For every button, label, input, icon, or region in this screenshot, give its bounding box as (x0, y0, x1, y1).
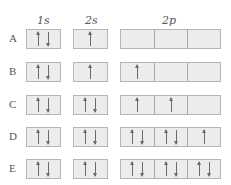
spin-down-arrow-icon (95, 162, 96, 176)
configuration-row: B (0, 62, 231, 82)
orbital-cell (154, 96, 187, 114)
spin-up-arrow-icon (166, 162, 167, 176)
spin-up-arrow-icon (38, 130, 39, 144)
orbital-cell (154, 128, 187, 146)
configuration-row: E (0, 159, 231, 179)
spin-up-arrow-icon (137, 65, 138, 79)
spin-up-arrow-icon (85, 162, 86, 176)
orbital-2p-box (120, 62, 221, 82)
spin-up-arrow-icon (38, 98, 39, 112)
orbital-1s-box (26, 62, 61, 82)
orbital-cell (27, 160, 60, 178)
spin-up-arrow-icon (132, 130, 133, 144)
orbital-cell (187, 160, 220, 178)
orbital-1s-box (26, 127, 61, 147)
orbital-cell (187, 96, 220, 114)
spin-down-arrow-icon (48, 130, 49, 144)
orbital-cell (121, 63, 154, 81)
spin-up-arrow-icon (38, 162, 39, 176)
spin-down-arrow-icon (95, 98, 96, 112)
orbital-cell (154, 160, 187, 178)
spin-down-arrow-icon (48, 162, 49, 176)
orbital-2p-box (120, 95, 221, 115)
option-label: D (9, 130, 17, 142)
spin-up-arrow-icon (137, 98, 138, 112)
orbital-1s-box (26, 159, 61, 179)
orbital-1s-box (26, 95, 61, 115)
orbital-cell (121, 96, 154, 114)
spin-up-arrow-icon (204, 130, 205, 144)
spin-up-arrow-icon (85, 98, 86, 112)
spin-down-arrow-icon (48, 98, 49, 112)
orbital-cell (27, 128, 60, 146)
orbital-2s-box (73, 95, 108, 115)
spin-up-arrow-icon (90, 32, 91, 46)
spin-up-arrow-icon (171, 98, 172, 112)
orbital-2p-box (120, 127, 221, 147)
spin-down-arrow-icon (176, 130, 177, 144)
orbital-cell (187, 128, 220, 146)
spin-down-arrow-icon (48, 32, 49, 46)
orbital-cell (121, 30, 154, 48)
spin-down-arrow-icon (209, 162, 210, 176)
orbital-2s-box (73, 62, 108, 82)
orbital-cell (121, 128, 154, 146)
spin-down-arrow-icon (142, 130, 143, 144)
orbital-1s-box (26, 29, 61, 49)
configuration-row: D (0, 127, 231, 147)
orbital-cell (154, 63, 187, 81)
spin-up-arrow-icon (166, 130, 167, 144)
spin-down-arrow-icon (95, 130, 96, 144)
orbital-cell (74, 96, 107, 114)
configuration-row: A (0, 29, 231, 49)
spin-down-arrow-icon (48, 65, 49, 79)
orbital-cell (74, 63, 107, 81)
header-1s: 1s (37, 14, 50, 27)
header-2p: 2p (162, 14, 176, 27)
orbital-cell (74, 30, 107, 48)
orbital-2p-box (120, 29, 221, 49)
spin-down-arrow-icon (142, 162, 143, 176)
spin-down-arrow-icon (176, 162, 177, 176)
orbital-2s-box (73, 159, 108, 179)
spin-up-arrow-icon (38, 65, 39, 79)
orbital-2p-box (120, 159, 221, 179)
orbital-cell (27, 30, 60, 48)
configuration-row: C (0, 95, 231, 115)
spin-up-arrow-icon (38, 32, 39, 46)
orbital-cell (187, 30, 220, 48)
option-label: A (9, 32, 17, 44)
header-2s: 2s (85, 14, 98, 27)
orbital-cell (121, 160, 154, 178)
orbital-cell (27, 63, 60, 81)
spin-up-arrow-icon (132, 162, 133, 176)
orbital-2s-box (73, 127, 108, 147)
option-label: B (9, 65, 16, 77)
option-label: E (9, 162, 16, 174)
orbital-cell (187, 63, 220, 81)
orbital-cell (154, 30, 187, 48)
orbital-cell (74, 160, 107, 178)
spin-up-arrow-icon (90, 65, 91, 79)
orbital-2s-box (73, 29, 108, 49)
spin-up-arrow-icon (199, 162, 200, 176)
orbital-cell (74, 128, 107, 146)
spin-up-arrow-icon (85, 130, 86, 144)
orbital-cell (27, 96, 60, 114)
option-label: C (9, 98, 16, 110)
